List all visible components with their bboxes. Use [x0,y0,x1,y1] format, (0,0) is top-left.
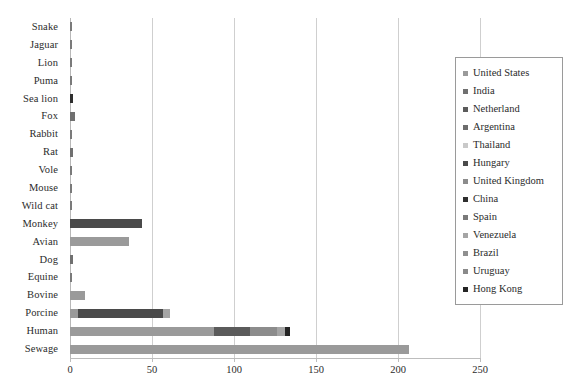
y-category-label-human: Human [0,326,64,336]
y-category-label-dog: Dog [0,255,64,265]
legend-swatch-icon [463,89,468,94]
bar-segment [70,291,85,300]
legend-swatch-icon [463,287,468,292]
y-category-label-monkey: Monkey [0,219,64,229]
bar-bovine [70,291,85,300]
bar-segment [285,327,290,336]
legend-swatch-icon [463,143,468,148]
gridline-50 [152,18,153,358]
bar-segment [250,327,276,336]
y-category-label-wild-cat: Wild cat [0,201,64,211]
bar-jaguar [70,40,72,49]
bar-segment [70,309,78,318]
x-tick-label: 150 [308,364,324,375]
legend-swatch-icon [463,197,468,202]
gridline-200 [398,18,399,358]
bar-porcine [70,309,170,318]
legend-item-hong-kong[interactable]: Hong Kong [463,280,562,298]
bar-rabbit [70,130,72,139]
legend-item-uruguay[interactable]: Uruguay [463,262,562,280]
bar-segment [70,112,75,121]
legend-item-united-kingdom[interactable]: United Kingdom [463,172,562,190]
legend-item-label: Uruguay [473,265,510,277]
bar-segment [78,309,163,318]
bar-segment [70,273,72,282]
legend-item-thailand[interactable]: Thailand [463,136,562,154]
legend-item-label: Venezuela [473,229,516,241]
bar-segment [70,130,72,139]
y-category-label-vole: Vole [0,165,64,175]
legend-item-label: Netherland [473,103,520,115]
y-category-label-jaguar: Jaguar [0,40,64,50]
legend-item-label: Hungary [473,157,510,169]
x-tick-label: 200 [390,364,406,375]
legend-swatch-icon [463,269,468,274]
bar-wild-cat [70,201,72,210]
x-tick-0 [70,358,71,362]
y-category-label-bovine: Bovine [0,290,64,300]
bar-segment [70,327,214,336]
y-category-label-porcine: Porcine [0,308,64,318]
x-tick-150 [316,358,317,362]
legend-swatch-icon [463,125,468,130]
legend-item-netherland[interactable]: Netherland [463,100,562,118]
legend-swatch-icon [463,251,468,256]
bar-dog [70,255,73,264]
legend-item-india[interactable]: India [463,82,562,100]
legend-item-label: China [473,193,498,205]
bar-vole [70,166,72,175]
gridline-100 [234,18,235,358]
x-tick-50 [152,358,153,362]
legend-swatch-icon [463,161,468,166]
legend-item-label: Thailand [473,139,510,151]
legend-item-label: United Kingdom [473,175,544,187]
legend-item-united-states[interactable]: United States [463,64,562,82]
bar-lion [70,58,72,67]
x-tick-250 [480,358,481,362]
legend-item-brazil[interactable]: Brazil [463,244,562,262]
bar-segment [70,255,73,264]
legend-item-hungary[interactable]: Hungary [463,154,562,172]
y-category-label-rat: Rat [0,147,64,157]
bar-segment [70,40,72,49]
legend-swatch-icon [463,179,468,184]
plot-area [70,18,480,358]
bar-equine [70,273,72,282]
legend-item-label: Spain [473,211,497,223]
y-category-label-lion: Lion [0,58,64,68]
legend-item-spain[interactable]: Spain [463,208,562,226]
horizontal-stacked-bar-chart: SnakeJaguarLionPumaSea lionFoxRabbitRatV… [0,0,585,390]
legend-item-argentina[interactable]: Argentina [463,118,562,136]
bar-mouse [70,184,72,193]
y-category-label-sea-lion: Sea lion [0,94,64,104]
y-category-label-fox: Fox [0,111,64,121]
bar-avian [70,237,129,246]
legend-item-label: India [473,85,495,97]
bar-segment [70,201,72,210]
legend-item-label: United States [473,67,529,79]
bar-segment [277,327,285,336]
bar-rat [70,148,73,157]
bar-segment [70,148,73,157]
y-axis-category-labels: SnakeJaguarLionPumaSea lionFoxRabbitRatV… [0,18,64,358]
bar-segment [70,22,72,31]
legend-item-label: Hong Kong [473,283,522,295]
bar-segment [70,237,129,246]
chart-legend: United StatesIndiaNetherlandArgentinaTha… [455,57,563,305]
bar-segment [163,309,170,318]
x-tick-200 [398,358,399,362]
y-category-label-puma: Puma [0,76,64,86]
bar-monkey [70,219,142,228]
legend-item-label: Argentina [473,121,515,133]
legend-swatch-icon [463,233,468,238]
legend-swatch-icon [463,71,468,76]
legend-item-china[interactable]: China [463,190,562,208]
legend-item-venezuela[interactable]: Venezuela [463,226,562,244]
x-tick-100 [234,358,235,362]
bar-segment [70,58,72,67]
bar-sea-lion [70,94,73,103]
legend-swatch-icon [463,215,468,220]
bar-puma [70,76,72,85]
y-category-label-snake: Snake [0,22,64,32]
bar-segment [70,345,409,354]
